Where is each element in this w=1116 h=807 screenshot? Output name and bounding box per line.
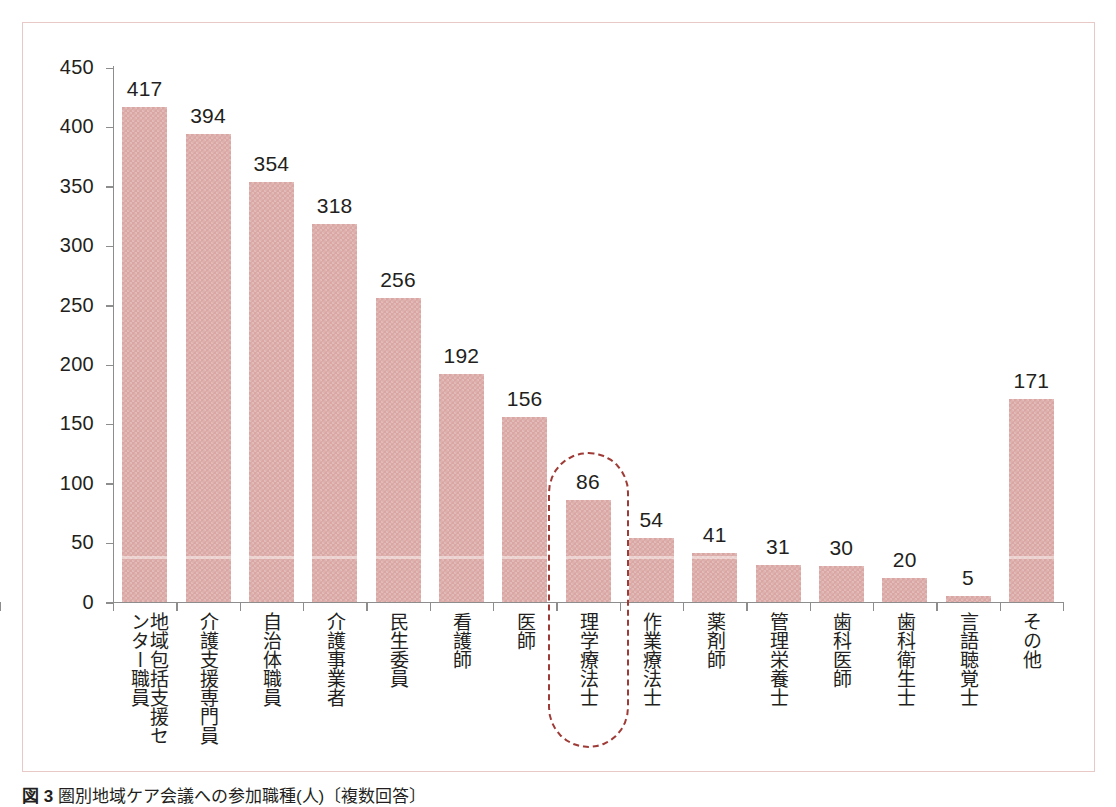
bar-value-label: 171 bbox=[1000, 369, 1063, 393]
bar-texture-band bbox=[439, 556, 484, 559]
x-axis-category-label: 歯科医師 bbox=[831, 612, 850, 688]
x-axis-category-label: 言語聴覚士 bbox=[958, 612, 977, 707]
bar bbox=[819, 566, 864, 602]
bar-value-label: 318 bbox=[303, 194, 366, 218]
x-axis-tick bbox=[1000, 602, 1001, 611]
x-axis-tick bbox=[873, 602, 874, 611]
x-axis-category-label: 歯科衛生士 bbox=[895, 612, 914, 707]
figure-caption-label: 図 3 bbox=[22, 787, 53, 806]
x-axis-category-label: 作業療法士 bbox=[641, 612, 660, 707]
x-axis-tick bbox=[366, 602, 367, 611]
x-axis-tick bbox=[176, 602, 177, 611]
bar-texture-band bbox=[376, 556, 421, 559]
bar bbox=[692, 553, 737, 602]
bar-value-label: 30 bbox=[810, 536, 873, 560]
bar bbox=[946, 596, 991, 602]
x-axis-tick bbox=[746, 602, 747, 611]
x-axis-tick bbox=[1063, 602, 1064, 611]
bar bbox=[756, 565, 801, 602]
bar-texture-band bbox=[312, 556, 357, 559]
x-axis-tick bbox=[493, 602, 494, 611]
x-axis-tick bbox=[113, 602, 114, 611]
x-axis-category-label: その他 bbox=[1021, 612, 1040, 669]
bar bbox=[376, 298, 421, 602]
bar bbox=[312, 224, 357, 602]
x-axis-category-label: 管理栄養士 bbox=[768, 612, 787, 707]
bar bbox=[186, 134, 231, 602]
x-axis-category-label: 薬剤師 bbox=[705, 612, 724, 669]
bar-texture-band bbox=[1009, 556, 1054, 559]
bar-texture-band bbox=[502, 556, 547, 559]
x-axis-tick bbox=[810, 602, 811, 611]
bar-texture-band bbox=[692, 556, 737, 559]
bar-value-label: 41 bbox=[683, 523, 746, 547]
figure-caption: 図 3 圏別地域ケア会議への参加職種(人)〔複数回答〕 bbox=[22, 782, 426, 807]
bar-value-label: 192 bbox=[430, 344, 493, 368]
bar-texture-band bbox=[249, 556, 294, 559]
bar bbox=[1009, 399, 1054, 602]
x-axis-category-label: 介護事業者 bbox=[325, 612, 344, 707]
x-axis-tick bbox=[240, 602, 241, 611]
figure-caption-text: 圏別地域ケア会議への参加職種(人)〔複数回答〕 bbox=[58, 787, 426, 806]
bar-value-label: 5 bbox=[936, 566, 999, 590]
bar bbox=[439, 374, 484, 602]
highlight-capsule-physical-therapist bbox=[548, 452, 629, 748]
x-axis-category-label: 自治体職員 bbox=[261, 612, 280, 707]
x-axis-tick bbox=[683, 602, 684, 611]
bar bbox=[122, 107, 167, 602]
bar-value-label: 417 bbox=[113, 77, 176, 101]
x-axis-category-label: 看護師 bbox=[451, 612, 470, 669]
x-axis-category-label: 地域包括支援センター職員 bbox=[124, 612, 168, 760]
bar-texture-band bbox=[122, 556, 167, 559]
x-axis-category-label: 民生委員 bbox=[388, 612, 407, 688]
bar bbox=[629, 538, 674, 602]
bar-value-label: 256 bbox=[366, 268, 429, 292]
bar-value-label: 20 bbox=[873, 548, 936, 572]
x-axis-tick bbox=[936, 602, 937, 611]
bar bbox=[249, 182, 294, 602]
x-axis-category-label: 医師 bbox=[515, 612, 534, 650]
x-axis-tick bbox=[430, 602, 431, 611]
x-axis-tick bbox=[303, 602, 304, 611]
bar bbox=[502, 417, 547, 602]
x-axis-category-label: 介護支援専門員 bbox=[198, 612, 217, 745]
bar-value-label: 31 bbox=[746, 535, 809, 559]
bar-value-label: 394 bbox=[176, 104, 239, 128]
bar bbox=[882, 578, 927, 602]
bar-value-label: 156 bbox=[493, 387, 556, 411]
bar-value-label: 354 bbox=[240, 152, 303, 176]
bar-texture-band bbox=[186, 556, 231, 559]
bar-value-label: 54 bbox=[620, 508, 683, 532]
bar-texture-band bbox=[629, 556, 674, 559]
